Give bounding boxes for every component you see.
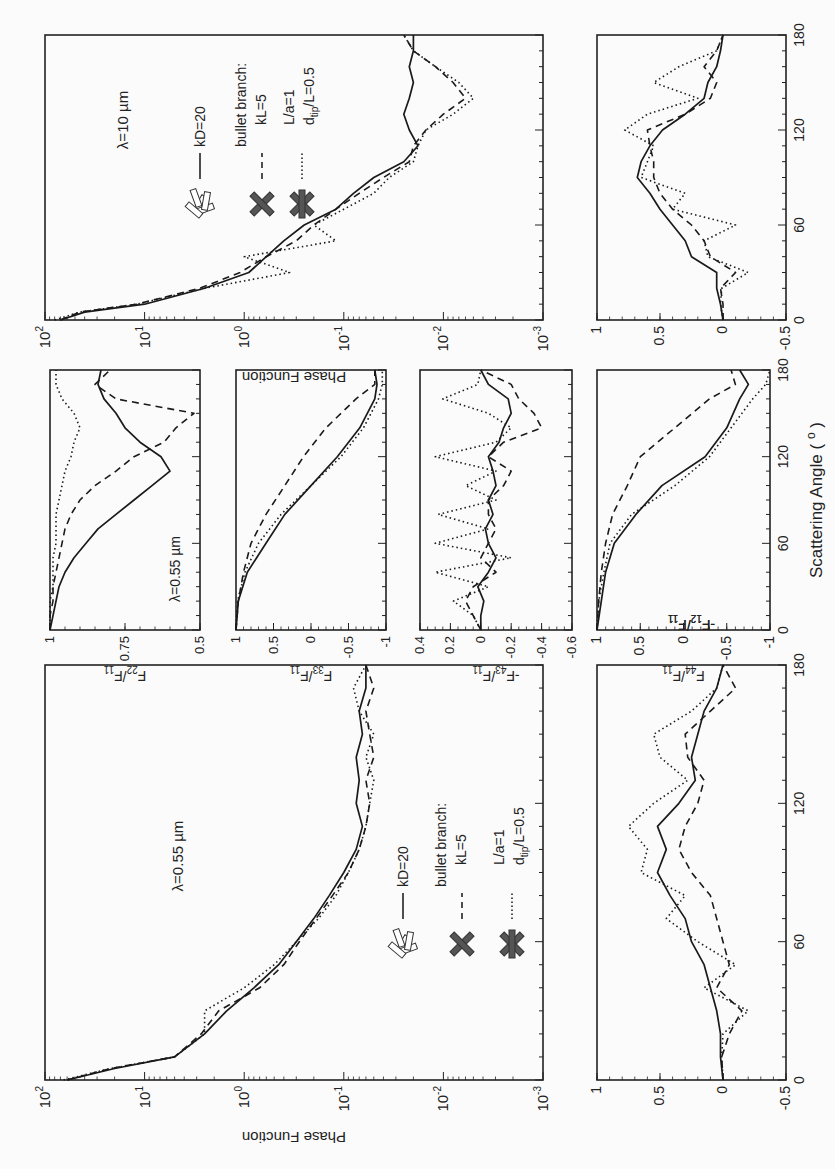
series-dotted — [55, 35, 474, 320]
series-solid — [67, 665, 366, 1080]
legend-dotted-label-1: L/a=1 — [281, 89, 297, 125]
plot-frame — [597, 370, 770, 630]
y-axis-label: -F43/F11 — [472, 664, 520, 684]
y-axis-label: F22/F11 — [103, 664, 146, 684]
y-tick-label: 1 — [588, 326, 604, 334]
x-tick-label: 60 — [791, 934, 807, 950]
y-tick-label: 0.5 — [631, 636, 647, 656]
y-tick-label: 10-1 — [333, 326, 352, 352]
figure-stage: 10210110010-110-210-3Phase Functionλ=10 … — [0, 0, 835, 1169]
x-tick-label: 180 — [775, 358, 791, 382]
series-dashed — [236, 370, 375, 630]
panel-f22: 10.750.5F22/F11 — [42, 370, 207, 684]
series-dotted — [64, 665, 374, 1080]
y-tick-label: 0 — [675, 636, 691, 644]
x-tick-label: 0 — [791, 316, 807, 324]
bullet-rosette-6-icon — [500, 930, 524, 958]
y-tick-label: 0.4 — [412, 636, 427, 654]
series-solid — [478, 370, 511, 630]
y-axis-label: F33/F11 — [289, 664, 332, 684]
x-axis-label-scattering-angle: Scattering Angle ( o ) — [804, 422, 826, 578]
y-tick-label: -0.2 — [503, 636, 518, 658]
plot-frame — [597, 665, 786, 1080]
panel-f43: 0.40.20-0.2-0.4-0.6-F43/F11 — [412, 370, 579, 684]
legend-dashed-label: kL=5 — [253, 94, 269, 125]
plot-frame — [45, 35, 543, 320]
y-tick-label: 0.5 — [651, 326, 667, 346]
x-tick-label: 120 — [791, 791, 807, 815]
series-dotted — [435, 370, 511, 630]
series-dotted — [236, 370, 382, 630]
y-tick-label: 0.5 — [266, 636, 281, 654]
y-axis-label-phase-function: Phase Function — [242, 369, 346, 386]
aggregate-crystal-icon — [185, 189, 214, 219]
legend-solid-label: kD=20 — [395, 846, 411, 887]
y-tick-label: 10-3 — [532, 326, 551, 352]
bullet-rosette-6-icon — [290, 190, 314, 218]
y-tick-label: 1 — [588, 636, 604, 644]
series-dashed — [679, 665, 742, 1080]
legend-dotted-label-2: dtip/L=0.5 — [301, 67, 320, 125]
plot-frame — [236, 370, 386, 630]
y-tick-label: -0.6 — [564, 636, 579, 658]
y-tick-label: 100 — [233, 326, 252, 349]
series-dashed — [647, 35, 735, 320]
scattering-matrix-figure: 10210110010-110-210-3Phase Functionλ=10 … — [0, 0, 835, 1169]
series-dotted — [629, 665, 749, 1080]
x-tick-label: 180 — [791, 23, 807, 47]
y-tick-label: 1 — [228, 636, 243, 643]
legend-dotted-label-2: dtip/L=0.5 — [511, 807, 530, 865]
series-solid — [236, 370, 377, 630]
series-dotted — [50, 370, 80, 630]
x-tick-label: 60 — [791, 217, 807, 233]
y-tick-label: 10-2 — [432, 326, 451, 352]
y-tick-label: 102 — [34, 1086, 53, 1109]
y-tick-label: 0 — [473, 636, 488, 643]
series-dashed — [597, 370, 735, 630]
series-solid — [637, 35, 723, 320]
y-tick-label: 10-1 — [333, 1086, 352, 1112]
y-tick-label: 0 — [303, 636, 318, 643]
y-tick-label: -0.4 — [534, 636, 549, 658]
x-tick-label: 120 — [791, 118, 807, 142]
aggregate-crystal-icon — [388, 929, 417, 959]
bullet-rosette-4-icon — [450, 932, 474, 956]
y-tick-label: 0.2 — [442, 636, 457, 654]
series-dotted — [597, 370, 770, 630]
y-tick-label: -1 — [378, 636, 393, 648]
y-tick-label: -1 — [761, 636, 777, 649]
legend-header: bullet branch: — [233, 63, 249, 147]
y-tick-label: -0.5 — [777, 1086, 793, 1110]
y-tick-label: 101 — [134, 326, 153, 349]
y-axis-label: F44/F11 — [662, 664, 705, 684]
panel-phase-055um: 10210110010-110-210-3Phase Functionλ=0.5… — [34, 665, 551, 1146]
x-tick-label: 180 — [791, 653, 807, 677]
y-tick-label: 10-3 — [532, 1086, 551, 1112]
y-tick-label: -0.5 — [777, 326, 793, 350]
y-tick-label: 0.75 — [117, 636, 132, 661]
legend-header: bullet branch: — [433, 803, 449, 887]
y-tick-label: 100 — [233, 1086, 252, 1109]
y-tick-label: 10-2 — [432, 1086, 451, 1112]
legend-dotted-label-1: L/a=1 — [491, 829, 507, 865]
legend-dashed-label: kL=5 — [453, 834, 469, 865]
y-tick-label: 1 — [588, 1086, 604, 1094]
y-tick-label: 0 — [714, 1086, 730, 1094]
legend: λ=0.55 µmkD=20bullet branch:kL=5L/a=1dti… — [169, 803, 530, 958]
panel-f33: 10.50-0.5-1F33/F11 — [228, 370, 393, 684]
x-tick-label: 120 — [775, 445, 791, 469]
plot-frame — [45, 665, 543, 1080]
y-tick-label: 0.5 — [192, 636, 207, 654]
series-solid — [658, 665, 724, 1080]
panel-phase-10um: 10210110010-110-210-3Phase Functionλ=10 … — [34, 35, 551, 386]
x-tick-label: 0 — [775, 626, 791, 634]
y-tick-label: 0 — [714, 326, 730, 334]
y-tick-label: -0.5 — [341, 636, 356, 658]
y-tick-label: -0.5 — [718, 636, 734, 660]
panel-f12-055um: 10.50-0.5060120180-F12/F11 — [588, 613, 807, 1110]
wavelength-annotation: λ=0.55 µm — [169, 821, 186, 892]
legend: λ=10 µmkD=20bullet branch:kL=5L/a=1dtip/… — [114, 63, 320, 218]
y-tick-label: 0.5 — [651, 1086, 667, 1106]
y-tick-label: 1 — [42, 636, 57, 643]
series-dotted — [625, 35, 749, 320]
